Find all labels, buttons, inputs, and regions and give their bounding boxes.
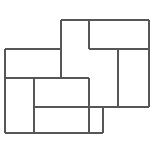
tile-right-lower — [118, 49, 149, 107]
tile-left-upper — [5, 49, 61, 78]
tile-top-right — [89, 20, 149, 49]
tile-right-upper — [89, 49, 118, 107]
tile-center-lower — [34, 78, 89, 107]
figure-root — [0, 0, 158, 145]
tile-left-lower — [5, 78, 34, 133]
tile-bottom — [34, 107, 103, 133]
tiling-diagram — [0, 0, 158, 145]
tile-top-left — [61, 20, 89, 78]
